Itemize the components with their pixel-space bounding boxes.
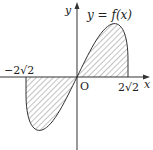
left-root-label: −2√2 xyxy=(4,64,34,77)
origin-label: O xyxy=(80,80,89,93)
function-graph: y y = f(x) −2√2 O 2√2 x xyxy=(0,0,153,150)
x-axis-label: x xyxy=(144,78,151,91)
function-label: y = f(x) xyxy=(86,8,132,22)
y-axis-arrow-icon xyxy=(75,2,80,9)
y-axis-label: y xyxy=(64,4,72,17)
right-root-label: 2√2 xyxy=(118,81,139,94)
